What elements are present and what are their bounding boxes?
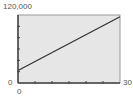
line-chart	[0, 0, 133, 99]
